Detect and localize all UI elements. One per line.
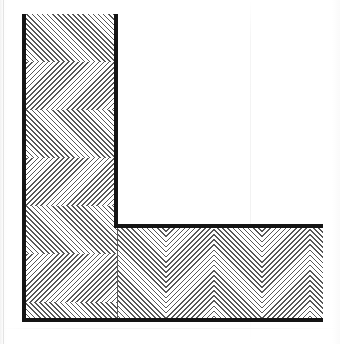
corner-mitre-joint bbox=[117, 228, 118, 320]
bottom-outer-edge bbox=[22, 318, 323, 322]
hatch-band bbox=[262, 227, 310, 322]
hatch-band bbox=[166, 227, 214, 322]
page-edge-line bbox=[3, 0, 4, 344]
hatch-band bbox=[23, 62, 118, 110]
top-inner-edge bbox=[114, 224, 323, 228]
hatch-band bbox=[23, 158, 118, 206]
hatch-band bbox=[23, 254, 118, 302]
wall-corner-section-drawing: Wall Corner Section Detail Scanned archi… bbox=[0, 0, 340, 344]
scan-streak-horizontal bbox=[0, 328, 340, 329]
wall-member-vertical-wall bbox=[23, 14, 118, 322]
hatch-band bbox=[23, 110, 118, 158]
wall-member-horizontal-wall bbox=[118, 227, 323, 322]
hatch-band bbox=[214, 227, 262, 322]
hatch-band bbox=[118, 227, 166, 322]
left-outer-edge bbox=[22, 14, 26, 322]
hatch-band bbox=[310, 227, 323, 322]
hatch-band bbox=[23, 14, 118, 62]
right-inner-edge bbox=[114, 14, 118, 228]
hatch-band bbox=[23, 206, 118, 254]
